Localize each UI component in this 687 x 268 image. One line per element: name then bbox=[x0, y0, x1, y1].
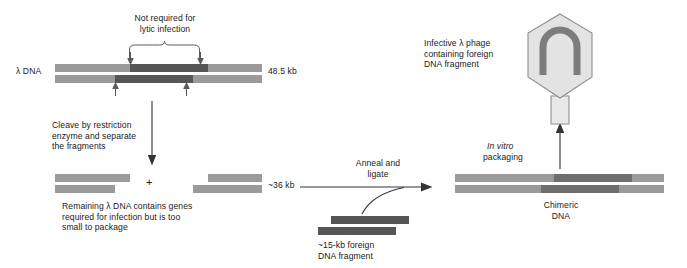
cleave-instruction-label: Cleave by restriction enzyme and separat… bbox=[52, 120, 136, 152]
chimeric-top-strand-left bbox=[455, 174, 554, 182]
lambda-bottom-strand-middle bbox=[115, 75, 193, 83]
chimeric-bottom-strand-insert bbox=[541, 185, 619, 193]
arms-size-label: ~36 kb bbox=[268, 180, 295, 191]
process-arrow-icon bbox=[149, 101, 156, 164]
anneal-ligate-label: Anneal and ligate bbox=[340, 158, 416, 179]
remaining-dna-note: Remaining λ DNA contains genes required … bbox=[62, 201, 192, 233]
chimeric-top-strand-insert bbox=[554, 174, 632, 182]
diagram-canvas: Not required for lytic infection λ DNA 4… bbox=[0, 0, 687, 268]
packaging-label: packaging bbox=[483, 152, 523, 163]
lambda-bottom-strand-right bbox=[193, 75, 262, 83]
chimeric-bottom-strand-left bbox=[455, 185, 541, 193]
plus-sign: + bbox=[146, 177, 153, 188]
lambda-bottom-strand-left bbox=[55, 75, 115, 83]
process-arrow-icon bbox=[557, 124, 564, 169]
chimeric-top-strand-right bbox=[632, 174, 664, 182]
left-arm-top-strand bbox=[55, 174, 130, 182]
cut-site-arrow-icon bbox=[128, 52, 203, 64]
infective-phage-label: Infective λ phage containing foreign DNA… bbox=[424, 38, 493, 70]
lambda-top-strand-middle bbox=[130, 64, 208, 72]
right-arm-top-strand bbox=[208, 174, 262, 182]
lambda-top-strand-left bbox=[55, 64, 130, 72]
lambda-top-strand-right bbox=[208, 64, 262, 72]
chimeric-dna-label: Chimeric DNA bbox=[521, 200, 601, 221]
in-vitro-label: In vitro bbox=[487, 141, 513, 152]
lambda-dna-label: λ DNA bbox=[16, 66, 41, 77]
bacteriophage-icon bbox=[528, 14, 592, 124]
curly-brace-icon bbox=[130, 41, 200, 59]
lambda-size-label: 48.5 kb bbox=[268, 66, 297, 77]
left-arm-bottom-strand bbox=[55, 185, 115, 193]
foreign-dna-top-strand bbox=[331, 216, 409, 224]
not-required-label: Not required for lytic infection bbox=[109, 13, 221, 34]
foreign-dna-bottom-strand bbox=[318, 227, 396, 235]
foreign-dna-label: ~15-kb foreign DNA fragment bbox=[318, 240, 374, 261]
right-arm-bottom-strand bbox=[193, 185, 262, 193]
cut-site-arrow-icon bbox=[113, 83, 189, 96]
chimeric-bottom-strand-right bbox=[619, 185, 664, 193]
ligation-connector-curve bbox=[362, 188, 404, 215]
process-arrow-icon bbox=[300, 183, 431, 191]
